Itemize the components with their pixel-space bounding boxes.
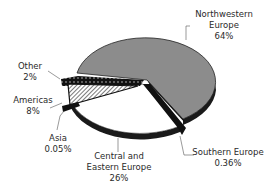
label-text: Central and bbox=[83, 151, 155, 162]
label-value: 0.05% bbox=[38, 144, 78, 155]
label-text: Europe bbox=[186, 20, 262, 31]
label-value: 64% bbox=[186, 31, 262, 42]
label-americas: Americas 8% bbox=[8, 95, 58, 117]
label-value: 0.36% bbox=[190, 158, 266, 169]
label-text: Americas bbox=[8, 95, 58, 106]
label-asia: Asia 0.05% bbox=[38, 133, 78, 155]
label-southern-europe: Southern Europe 0.36% bbox=[190, 147, 266, 169]
label-value: 26% bbox=[83, 173, 155, 184]
label-northwestern-europe: Northwestern Europe 64% bbox=[186, 9, 262, 42]
label-text: Southern Europe bbox=[190, 147, 266, 158]
label-other: Other 2% bbox=[10, 61, 50, 83]
label-text: Eastern Europe bbox=[83, 162, 155, 173]
label-value: 2% bbox=[10, 72, 50, 83]
label-text: Northwestern bbox=[186, 9, 262, 20]
label-central-eastern-europe: Central and Eastern Europe 26% bbox=[83, 151, 155, 184]
label-value: 8% bbox=[8, 106, 58, 117]
label-text: Asia bbox=[38, 133, 78, 144]
label-text: Other bbox=[10, 61, 50, 72]
